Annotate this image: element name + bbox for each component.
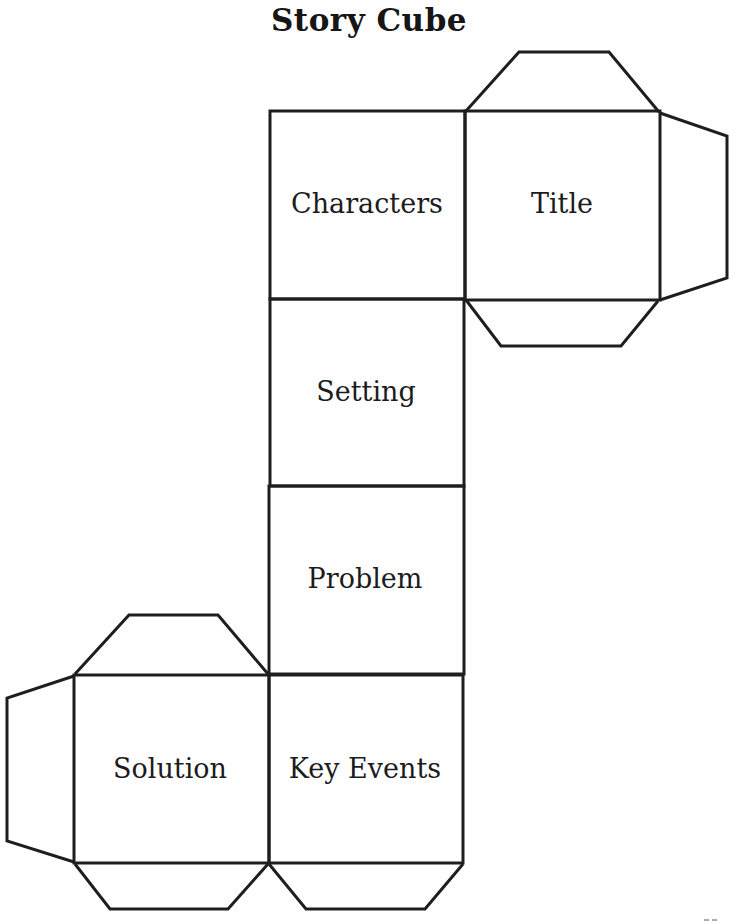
- title-bottom-flap: [466, 300, 658, 346]
- face-setting-label: Setting: [316, 376, 415, 407]
- page-number-mark: [704, 919, 717, 921]
- face-key-events: Key Events: [269, 675, 463, 863]
- solution-bottom-flap: [75, 864, 268, 909]
- face-characters: Characters: [270, 111, 465, 299]
- title-right-flap: [660, 113, 727, 300]
- face-characters-label: Characters: [291, 188, 443, 219]
- page-mark-left: [704, 919, 709, 921]
- solution-left-flap: [7, 676, 74, 862]
- page-mark-right: [712, 919, 717, 921]
- title-top-flap: [466, 52, 659, 112]
- cube-net-diagram: Characters Title Setting Problem Solutio…: [0, 0, 738, 922]
- face-solution: Solution: [74, 675, 269, 863]
- solution-top-flap: [75, 615, 268, 674]
- face-solution-label: Solution: [113, 753, 227, 784]
- face-key-events-label: Key Events: [289, 753, 441, 784]
- face-title: Title: [465, 111, 660, 300]
- key-events-bottom-flap: [269, 864, 463, 909]
- face-problem: Problem: [269, 486, 464, 674]
- face-title-label: Title: [531, 188, 593, 219]
- face-setting: Setting: [270, 299, 464, 486]
- face-problem-label: Problem: [308, 563, 423, 594]
